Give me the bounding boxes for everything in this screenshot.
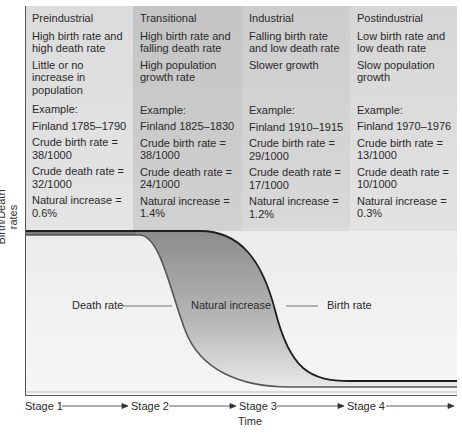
death-rate-label: Death rate: [72, 299, 123, 311]
birth-rate-label: Birth rate: [327, 299, 372, 311]
x-axis-label: Time: [238, 415, 262, 427]
y-axis-label: Birth/Death rates: [0, 177, 19, 257]
stage-3-label: Stage 3: [239, 400, 277, 412]
y-axis: [25, 6, 26, 395]
stage-4-label: Stage 4: [347, 400, 385, 412]
stage-1-label: Stage 1: [25, 400, 63, 412]
x-axis: [25, 395, 457, 396]
natural-increase-label: Natural increase: [191, 299, 271, 311]
transition-curves: [0, 0, 462, 434]
stage-2-label: Stage 2: [131, 400, 169, 412]
